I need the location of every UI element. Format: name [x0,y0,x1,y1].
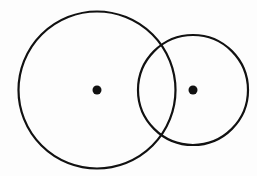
small-circle-center-point [189,86,198,95]
circles-diagram [0,0,257,176]
diagram-canvas [0,0,257,176]
large-circle-center-point [93,86,102,95]
